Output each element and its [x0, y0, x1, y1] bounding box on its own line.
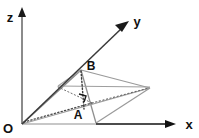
- point-label-b: B: [87, 59, 96, 73]
- z-axis-label: z: [7, 10, 14, 25]
- z-axis-arrowhead: [18, 7, 26, 17]
- y-axis-arrowhead: [115, 21, 129, 32]
- edge-right-vertex-to-front-vertex: [96, 88, 150, 123]
- edge-horizontal-midline: [58, 86, 150, 87]
- x-axis-label: x: [185, 117, 193, 132]
- y-axis-label: y: [133, 14, 141, 29]
- geometry-diagram: z y x O B A: [0, 0, 199, 138]
- point-label-a: A: [74, 108, 83, 122]
- figure-container: z y x O B A: [0, 0, 199, 138]
- origin-label: O: [3, 121, 13, 136]
- axes-group: [18, 7, 176, 128]
- x-axis-arrowhead: [165, 120, 176, 128]
